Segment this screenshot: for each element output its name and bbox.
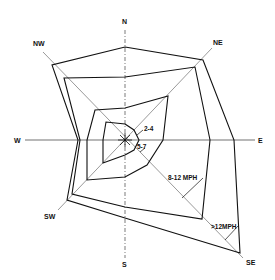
center-star-icon xyxy=(118,133,132,147)
ne-sw-axis xyxy=(58,48,212,210)
leader-2-4 xyxy=(137,130,143,135)
direction-label-e: E xyxy=(258,137,263,144)
speed-label-5-7: 5-7 xyxy=(137,143,147,150)
direction-label-sw: SW xyxy=(44,213,56,220)
direction-label-s: S xyxy=(122,261,127,268)
direction-label-ne: NE xyxy=(213,39,223,46)
speed-label-8-12: 8-12 MPH xyxy=(168,174,198,181)
direction-label-w: W xyxy=(14,137,21,144)
direction-label-n: N xyxy=(122,18,127,25)
speed-label-over-12: >12MPH xyxy=(211,223,237,230)
direction-label-nw: NW xyxy=(33,40,45,47)
direction-label-se: SE xyxy=(246,259,256,266)
speed-label-2-4: 2-4 xyxy=(144,125,154,132)
leader-8-12 xyxy=(182,178,203,198)
wind-rose-diagram: N NE E SE S SW W NW 2-4 5-7 8-12 MPH >12… xyxy=(0,0,275,280)
